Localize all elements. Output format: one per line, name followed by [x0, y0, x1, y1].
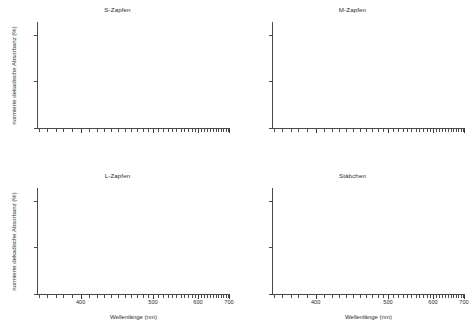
x-tick-minor [332, 129, 333, 132]
x-tick-minor [201, 129, 202, 132]
x-tick-minor [407, 129, 408, 132]
x-tick-minor [383, 129, 384, 132]
x-tick-minor [423, 295, 424, 298]
x-tick-minor [218, 129, 219, 132]
x-tick-minor [192, 129, 193, 132]
x-tick-minor [442, 129, 443, 132]
x-tick-minor [39, 295, 40, 298]
y-tick [34, 35, 37, 36]
x-tick-minor [360, 295, 361, 298]
x-tick-minor [125, 295, 126, 298]
x-tick-minor [118, 129, 119, 132]
x-tick-minor [403, 295, 404, 298]
y-tick [269, 247, 272, 248]
x-tick-minor [282, 129, 283, 132]
x-tick-minor [143, 129, 144, 132]
x-tick-minor [448, 129, 449, 132]
panel-title-l_cone: L-Zapfen [0, 172, 235, 179]
x-tick-minor [172, 129, 173, 132]
x-tick-minor [427, 295, 428, 298]
y-tick [34, 128, 37, 129]
x-tick-minor [56, 129, 57, 132]
y-tick [269, 35, 272, 36]
x-tick-minor [204, 295, 205, 298]
x-tick-major [198, 129, 199, 133]
x-tick-major [153, 129, 154, 133]
x-tick-minor [226, 129, 227, 132]
x-tick-minor [195, 295, 196, 298]
x-tick-minor [442, 295, 443, 298]
x-tick-minor [201, 295, 202, 298]
panel-s_cone: S-Zapfennormierte dekadische Absorbanz (… [0, 0, 235, 166]
y-axis-title: normierte dekadische Absorbanz (%) [9, 188, 19, 295]
x-tick-minor [274, 129, 275, 132]
x-tick-minor [184, 129, 185, 132]
x-tick-minor [168, 129, 169, 132]
x-tick-minor [458, 295, 459, 298]
plot-area-rods: 400500600700Wellenlänge (nm) [272, 188, 465, 295]
x-tick-label: 700 [451, 300, 470, 306]
y-tick [34, 294, 37, 295]
plot-area-m_cone [272, 22, 465, 129]
x-tick-label: 400 [303, 300, 329, 306]
x-tick-minor [213, 129, 214, 132]
x-tick-minor [291, 295, 292, 298]
panel-m_cone: M-Zapfen [235, 0, 470, 166]
y-tick [34, 247, 37, 248]
x-tick-minor [403, 129, 404, 132]
x-tick-minor [184, 295, 185, 298]
x-tick-minor [47, 129, 48, 132]
x-tick-minor [366, 129, 367, 132]
x-tick-minor [445, 295, 446, 298]
x-tick-minor [346, 295, 347, 298]
x-tick-minor [172, 295, 173, 298]
x-tick-minor [176, 295, 177, 298]
x-tick-minor [419, 295, 420, 298]
x-tick-minor [131, 295, 132, 298]
x-tick-major [464, 129, 465, 133]
x-tick-minor [192, 295, 193, 298]
x-tick-minor [216, 129, 217, 132]
y-tick [269, 81, 272, 82]
x-tick-minor [383, 295, 384, 298]
y-tick [269, 201, 272, 202]
x-tick-minor [181, 129, 182, 132]
x-tick-minor [378, 295, 379, 298]
x-tick-major [316, 129, 317, 133]
x-tick-minor [131, 129, 132, 132]
figure-canvas: S-Zapfennormierte dekadische Absorbanz (… [0, 0, 470, 333]
x-tick-minor [163, 129, 164, 132]
x-tick-minor [360, 129, 361, 132]
x-tick-minor [291, 129, 292, 132]
x-tick-minor [226, 295, 227, 298]
x-tick-minor [436, 129, 437, 132]
x-tick-label: 500 [140, 300, 166, 306]
x-tick-minor [188, 129, 189, 132]
x-tick-minor [72, 129, 73, 132]
x-tick-minor [111, 129, 112, 132]
x-tick-minor [416, 129, 417, 132]
y-axis-spine [37, 22, 38, 129]
x-tick-minor [332, 295, 333, 298]
x-tick-minor [407, 295, 408, 298]
x-tick-minor [89, 295, 90, 298]
x-tick-minor [210, 295, 211, 298]
x-tick-minor [104, 129, 105, 132]
x-tick-minor [195, 129, 196, 132]
x-tick-minor [137, 129, 138, 132]
x-tick-minor [411, 295, 412, 298]
x-tick-minor [221, 295, 222, 298]
x-tick-minor [223, 295, 224, 298]
x-tick-minor [324, 129, 325, 132]
x-tick-minor [416, 295, 417, 298]
x-tick-minor [439, 295, 440, 298]
x-tick-minor [451, 295, 452, 298]
y-tick [34, 201, 37, 202]
x-tick-minor [118, 295, 119, 298]
x-tick-minor [298, 295, 299, 298]
x-tick-minor [372, 129, 373, 132]
x-tick-minor [445, 129, 446, 132]
x-tick-minor [223, 129, 224, 132]
x-tick-minor [176, 129, 177, 132]
x-tick-minor [411, 129, 412, 132]
